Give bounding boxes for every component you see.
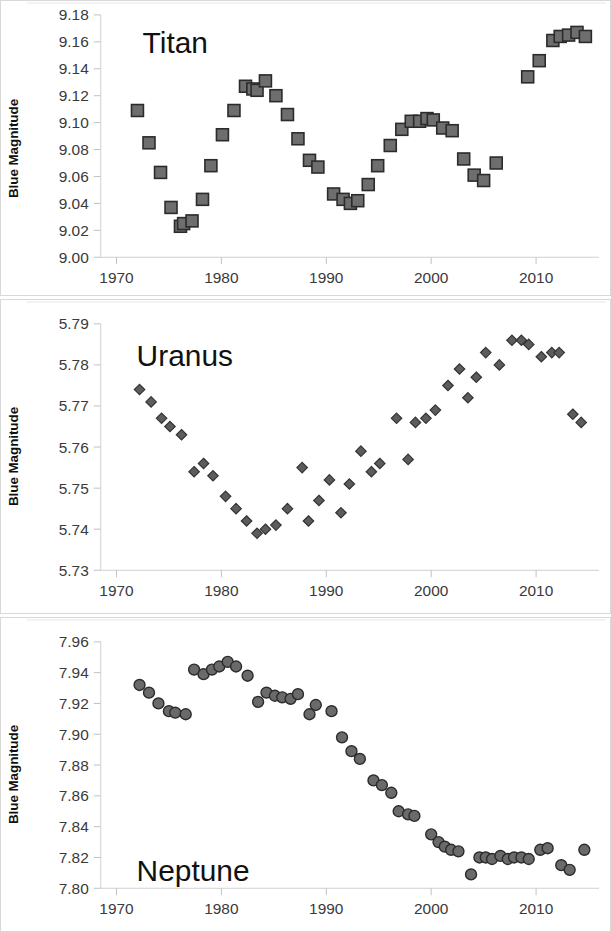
data-point xyxy=(303,516,313,526)
y-tick-label: 5.74 xyxy=(59,521,89,538)
data-point xyxy=(533,55,545,67)
data-point xyxy=(478,175,490,187)
data-point xyxy=(554,347,564,357)
data-point xyxy=(471,372,481,382)
y-tick-label: 5.79 xyxy=(59,315,89,332)
data-point xyxy=(189,466,199,476)
data-point xyxy=(384,140,396,152)
data-point xyxy=(297,462,307,472)
data-point xyxy=(271,520,281,530)
data-point xyxy=(197,193,209,205)
data-point xyxy=(490,157,502,169)
y-tick-label: 9.14 xyxy=(59,60,89,77)
x-tick-label: 2010 xyxy=(519,900,553,917)
y-tick-label: 7.96 xyxy=(59,633,89,650)
y-tick-label: 5.75 xyxy=(59,480,89,497)
data-point xyxy=(576,417,586,427)
y-tick-label: 7.88 xyxy=(59,757,89,774)
y-tick-label: 9.00 xyxy=(59,249,89,266)
data-point xyxy=(446,125,458,137)
data-point xyxy=(282,503,292,513)
data-point xyxy=(165,421,175,431)
plot-area-neptune: 7.807.827.847.867.887.907.927.947.961970… xyxy=(27,618,606,931)
data-point xyxy=(180,709,191,720)
data-point xyxy=(536,351,546,361)
data-point xyxy=(403,454,413,464)
y-axis-label-uranus-text: Blue Magnitude xyxy=(7,407,22,506)
plot-area-uranus: 5.735.745.755.765.775.785.79197019801990… xyxy=(27,300,606,613)
data-point xyxy=(241,516,251,526)
plot-title: Titan xyxy=(143,26,208,59)
data-point xyxy=(326,706,337,717)
panel-neptune: Blue Magnitude 7.807.827.847.867.887.907… xyxy=(0,617,611,932)
data-point xyxy=(453,846,464,857)
x-tick-label: 2000 xyxy=(414,582,448,599)
data-point xyxy=(231,503,241,513)
data-point xyxy=(366,466,376,476)
data-point xyxy=(376,780,387,791)
y-tick-label: 5.78 xyxy=(59,356,89,373)
data-point xyxy=(220,491,230,501)
y-axis-label-neptune: Blue Magnitude xyxy=(1,618,27,931)
x-tick-label: 1970 xyxy=(99,269,133,286)
y-tick-label: 9.18 xyxy=(59,6,89,23)
data-point xyxy=(216,129,228,141)
data-point xyxy=(344,479,354,489)
data-point xyxy=(231,661,242,672)
data-point xyxy=(568,409,578,419)
y-tick-label: 9.16 xyxy=(59,33,89,50)
data-point xyxy=(494,360,504,370)
data-series-neptune xyxy=(134,656,590,879)
data-point xyxy=(146,397,156,407)
data-point xyxy=(337,732,348,743)
data-point xyxy=(143,137,155,149)
data-point xyxy=(228,105,240,117)
data-point xyxy=(579,844,590,855)
data-point xyxy=(463,393,473,403)
y-tick-label: 9.06 xyxy=(59,168,89,185)
data-point xyxy=(579,30,591,42)
y-tick-label: 9.08 xyxy=(59,141,89,158)
y-tick-label: 7.80 xyxy=(59,880,89,897)
data-point xyxy=(386,787,397,798)
x-tick-label: 1980 xyxy=(204,582,238,599)
x-tick-label: 1970 xyxy=(99,900,133,917)
y-tick-label: 7.82 xyxy=(59,849,89,866)
data-point xyxy=(410,417,420,427)
data-point xyxy=(372,160,384,172)
data-point xyxy=(186,215,198,227)
data-point xyxy=(443,380,453,390)
y-axis-label-titan-text: Blue Magnitude xyxy=(7,98,22,197)
data-point xyxy=(409,810,420,821)
data-point xyxy=(208,471,218,481)
data-point xyxy=(170,707,181,718)
x-tick-label: 1970 xyxy=(99,582,133,599)
data-point xyxy=(253,696,264,707)
plot-area-titan: 9.009.029.049.069.089.109.129.149.169.18… xyxy=(27,1,606,295)
data-point xyxy=(242,670,253,681)
data-point xyxy=(542,843,553,854)
data-point xyxy=(480,347,490,357)
data-point xyxy=(314,495,324,505)
y-tick-label: 9.04 xyxy=(59,195,89,212)
y-tick-label: 7.92 xyxy=(59,695,89,712)
data-point xyxy=(134,384,144,394)
plot-title: Neptune xyxy=(137,854,250,887)
data-point xyxy=(362,179,374,191)
x-tick-label: 2010 xyxy=(519,582,553,599)
x-tick-label: 1990 xyxy=(309,269,343,286)
data-point xyxy=(153,698,164,709)
plot-title: Uranus xyxy=(137,339,233,372)
data-point xyxy=(198,458,208,468)
data-point xyxy=(354,753,365,764)
x-tick-label: 2000 xyxy=(414,900,448,917)
data-point xyxy=(352,195,364,207)
y-tick-label: 5.77 xyxy=(59,397,89,414)
data-point xyxy=(176,430,186,440)
x-tick-label: 1990 xyxy=(309,582,343,599)
data-point xyxy=(259,75,271,87)
panel-uranus: Blue Magnitude 5.735.745.755.765.775.785… xyxy=(0,299,611,614)
y-tick-label: 7.84 xyxy=(59,818,89,835)
data-point xyxy=(454,364,464,374)
x-tick-label: 2000 xyxy=(414,269,448,286)
